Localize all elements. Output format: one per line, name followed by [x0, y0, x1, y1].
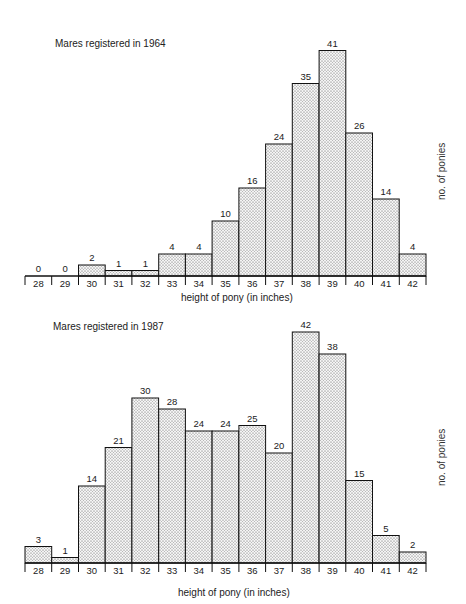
- x-tick-label: 36: [247, 565, 258, 576]
- histogram-bar: [105, 448, 132, 564]
- histogram-bar: [212, 431, 239, 563]
- bar-value-label: 20: [274, 440, 285, 451]
- bar-value-label: 14: [87, 473, 98, 484]
- histogram-bar: [185, 431, 212, 563]
- x-tick-label: 39: [327, 565, 338, 576]
- bar-value-label: 15: [354, 468, 365, 479]
- bar-value-label: 28: [167, 396, 178, 407]
- histogram-bar: [346, 481, 373, 564]
- histogram-bar: [79, 486, 106, 563]
- chart-1987: Mares registered in 1987 no. of ponies h…: [0, 0, 466, 604]
- x-tick-label: 28: [33, 565, 44, 576]
- bar-value-label: 42: [300, 319, 311, 330]
- x-tick-label: 37: [274, 565, 285, 576]
- bar-value-label: 5: [383, 523, 388, 534]
- bar-value-label: 30: [140, 385, 151, 396]
- histogram-bar: [399, 552, 426, 563]
- bar-value-label: 24: [220, 418, 231, 429]
- histogram-bar: [159, 409, 186, 563]
- x-tick-label: 38: [300, 565, 311, 576]
- x-tick-label: 41: [381, 565, 392, 576]
- histogram-bar: [132, 398, 159, 563]
- x-tick-label: 42: [407, 565, 418, 576]
- x-tick-label: 34: [194, 565, 205, 576]
- bar-value-label: 2: [410, 539, 415, 550]
- x-tick-label: 33: [167, 565, 178, 576]
- histogram-bar: [239, 426, 266, 564]
- histogram-bar: [52, 558, 79, 564]
- x-tick-label: 35: [220, 565, 231, 576]
- bar-value-label: 24: [194, 418, 205, 429]
- histogram-bar: [266, 453, 293, 563]
- bar-value-label: 38: [327, 341, 338, 352]
- histogram-bar: [25, 547, 52, 564]
- histogram-bar: [373, 536, 400, 564]
- bar-value-label: 21: [113, 435, 124, 446]
- bar-value-label: 3: [36, 534, 41, 545]
- histogram-bar: [319, 354, 346, 563]
- bar-value-label: 25: [247, 413, 258, 424]
- histogram-1987: 3281291430213130322833243424352536203742…: [0, 0, 466, 604]
- x-tick-label: 40: [354, 565, 365, 576]
- x-tick-label: 32: [140, 565, 151, 576]
- x-tick-label: 31: [113, 565, 124, 576]
- x-tick-label: 30: [87, 565, 98, 576]
- x-tick-label: 29: [60, 565, 71, 576]
- bar-value-label: 1: [62, 545, 67, 556]
- histogram-bar: [292, 332, 319, 563]
